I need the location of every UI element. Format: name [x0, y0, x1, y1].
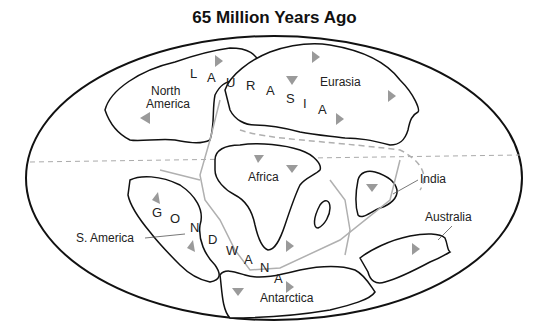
svg-text:A: A — [207, 70, 216, 85]
svg-text:U: U — [226, 75, 235, 90]
label-south-america: S. America — [76, 231, 134, 245]
label-north-america-1: North — [151, 84, 180, 98]
svg-text:S: S — [286, 91, 295, 106]
svg-text:N: N — [190, 220, 199, 235]
svg-text:A: A — [266, 83, 275, 98]
australia-landmass — [360, 234, 450, 283]
svg-text:R: R — [246, 78, 255, 93]
svg-text:W: W — [226, 243, 239, 258]
svg-text:D: D — [208, 232, 217, 247]
svg-text:G: G — [152, 205, 162, 220]
label-australia: Australia — [425, 210, 472, 224]
madagascar-landmass — [314, 201, 330, 228]
label-north-america-2: America — [146, 97, 190, 111]
label-antarctica: Antarctica — [260, 291, 314, 305]
svg-text:I: I — [303, 96, 307, 111]
svg-text:L: L — [190, 66, 197, 81]
paleogeographic-map: L A U R A S I A G O N D W A N A North Am… — [0, 0, 549, 327]
svg-text:A: A — [318, 102, 327, 117]
label-india: India — [420, 172, 446, 186]
svg-text:O: O — [170, 211, 180, 226]
south-america-landmass — [128, 177, 219, 282]
africa-landmass — [215, 144, 320, 250]
svg-text:A: A — [274, 271, 283, 286]
label-eurasia: Eurasia — [320, 75, 361, 89]
svg-text:A: A — [244, 252, 253, 267]
label-africa: Africa — [248, 170, 279, 184]
svg-text:N: N — [260, 260, 269, 275]
